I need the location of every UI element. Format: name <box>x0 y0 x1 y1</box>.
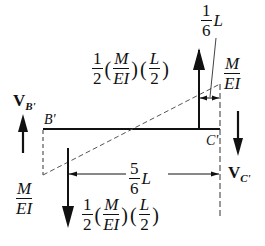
lower-coef-num: 1 <box>82 196 93 215</box>
vc-arrowhead-icon <box>233 138 243 156</box>
vb-symbol: V <box>13 91 25 110</box>
paren-open: ( <box>130 205 137 225</box>
paren-close: ) <box>152 205 159 225</box>
paren-close: ) <box>121 205 128 225</box>
lower-t2-den: 2 <box>140 215 149 233</box>
upper-t2-num: L <box>149 50 160 69</box>
upper-t2-den: 2 <box>150 69 159 87</box>
dim-bottom-num: 5 <box>129 160 140 179</box>
paren-close: ) <box>131 59 138 79</box>
paren-close: ) <box>162 59 169 79</box>
upper-coef-den: 2 <box>93 69 102 87</box>
right-ord-den: EI <box>224 74 240 92</box>
lower-resultant-label: 12 (MEI) (L2) <box>82 196 159 233</box>
vb-reaction-label: VB' <box>13 92 36 112</box>
dim-top-den: 6 <box>202 21 211 39</box>
vc-symbol: V <box>228 163 240 182</box>
vc-subscript: C' <box>240 172 250 184</box>
right-ordinate-label: MEI <box>224 55 240 92</box>
dimension-one-sixth-label: 16 L <box>201 2 223 39</box>
paren-open: ( <box>105 59 112 79</box>
lower-t2-num: L <box>139 196 150 215</box>
vc-reaction-label: VC' <box>228 164 251 184</box>
paren-open: ( <box>140 59 147 79</box>
upper-t1-num: M <box>113 50 129 69</box>
left-ord-den: EI <box>16 199 32 217</box>
upper-arrowhead-icon <box>193 48 205 70</box>
lower-arrowhead-icon <box>62 206 74 228</box>
dim-top-left-arrow-icon <box>200 96 207 101</box>
dim-bottom-left-arrow-icon <box>69 172 77 177</box>
lower-t1-num: M <box>103 196 119 215</box>
dim-top-num: 1 <box>201 2 212 21</box>
dim-top-var: L <box>214 12 223 29</box>
upper-t1-den: EI <box>113 69 129 87</box>
dim-bottom-var: L <box>142 170 151 187</box>
right-ord-num: M <box>224 55 240 74</box>
vb-arrowhead-icon <box>18 114 28 132</box>
lower-coef-den: 2 <box>83 215 92 233</box>
lower-t1-den: EI <box>103 215 119 233</box>
left-ordinate-label: MEI <box>16 180 32 217</box>
dim-bottom-den: 6 <box>130 179 139 197</box>
beam-right-end-label: C' <box>206 134 218 148</box>
dim-bottom-right-arrow-icon <box>211 172 219 177</box>
upper-resultant-label: 12 (MEI) (L2) <box>92 50 169 87</box>
paren-open: ( <box>95 205 102 225</box>
upper-coef-num: 1 <box>92 50 103 69</box>
dim-top-right-arrow-icon <box>212 96 219 101</box>
dimension-one-sixth-leader <box>210 38 216 97</box>
left-ord-num: M <box>16 180 32 199</box>
beam-left-end-label: B' <box>44 113 56 127</box>
dimension-five-sixths-label: 56 L <box>129 160 151 197</box>
vb-subscript: B' <box>25 100 35 112</box>
